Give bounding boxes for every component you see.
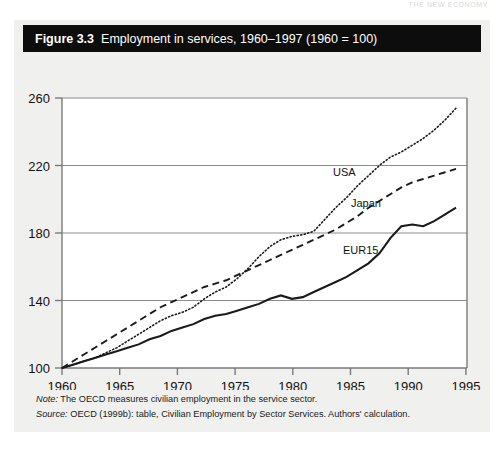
- x-tick-label: 1995: [451, 379, 480, 390]
- note-text: The OECD measures civilian employment in…: [60, 394, 317, 404]
- y-tick-label: 100: [28, 361, 50, 376]
- series-label-usa: USA: [333, 166, 356, 178]
- source-label: Source:: [36, 409, 68, 419]
- note-line: Note: The OECD measures civilian employm…: [36, 392, 486, 407]
- y-tick-label: 140: [28, 294, 50, 309]
- figure-title: Employment in services, 1960–1997 (1960 …: [101, 32, 377, 46]
- chart-plot-area: 260 220 180 140 100 1960 1965 1970 1975 …: [14, 60, 490, 390]
- x-tick-label: 1980: [278, 379, 307, 390]
- series-label-eur15: EUR15: [343, 244, 378, 256]
- y-tick-label: 220: [28, 159, 50, 174]
- x-tick-label: 1985: [336, 379, 365, 390]
- source-text: OECD (1999b): table, Civilian Employment…: [70, 409, 410, 419]
- page-running-header: THE NEW ECONOMY: [409, 1, 488, 8]
- y-tick-label: 260: [28, 91, 50, 106]
- figure-number: Figure 3.3: [35, 32, 94, 46]
- line-chart: 260 220 180 140 100 1960 1965 1970 1975 …: [14, 60, 490, 390]
- x-tick-label: 1975: [221, 379, 250, 390]
- x-tick-label: 1990: [394, 379, 423, 390]
- y-tick-marks: [55, 98, 62, 368]
- figure-notes: Note: The OECD measures civilian employm…: [36, 392, 486, 422]
- x-tick-label: 1960: [48, 379, 77, 390]
- note-label: Note:: [36, 394, 58, 404]
- source-line: Source: OECD (1999b): table, Civilian Em…: [36, 407, 486, 422]
- x-tick-label: 1970: [163, 379, 192, 390]
- y-tick-label: 180: [28, 226, 50, 241]
- figure-title-bar: Figure 3.3 Employment in services, 1960–…: [23, 25, 481, 52]
- figure-block: Figure 3.3 Employment in services, 1960–…: [14, 20, 490, 432]
- figure-page: THE NEW ECONOMY Figure 3.3 Employment in…: [0, 0, 504, 462]
- x-tick-label: 1965: [105, 379, 134, 390]
- x-tick-marks: [62, 368, 466, 375]
- series-label-japan: Japan: [351, 197, 381, 209]
